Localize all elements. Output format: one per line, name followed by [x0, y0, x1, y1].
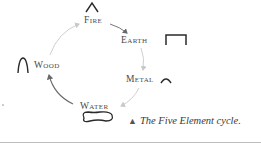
triangle-marker-icon: ▲	[128, 116, 137, 126]
arrow-fire-to-earth	[110, 24, 127, 33]
wood-symbol-icon	[18, 58, 28, 73]
water-symbol-icon	[83, 112, 112, 122]
earth-symbol-icon	[166, 35, 186, 45]
element-label-fire: Fire	[84, 15, 102, 25]
figure-caption: ▲The Five Element cycle.	[128, 115, 241, 126]
element-label-wood: Wood	[34, 60, 60, 70]
arrow-wood-to-fire	[50, 24, 79, 55]
arrow-water-to-wood	[49, 75, 73, 104]
element-label-metal: Metal	[126, 74, 154, 84]
metal-symbol-icon	[161, 79, 171, 83]
element-label-earth: Earth	[121, 35, 147, 45]
arrow-metal-to-water	[121, 88, 139, 106]
element-label-water: Water	[80, 101, 108, 111]
caption-text: The Five Element cycle.	[140, 115, 241, 126]
arrow-earth-to-metal	[141, 48, 144, 70]
five-element-diagram: Fire Earth Metal Water Wood ▲The Five El…	[0, 0, 261, 147]
horizontal-rule	[0, 142, 261, 143]
stray-dot	[2, 104, 4, 106]
fire-symbol-icon	[86, 3, 98, 12]
